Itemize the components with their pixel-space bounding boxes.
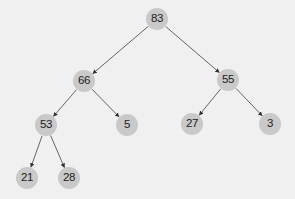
tree-node-53[interactable]: 53: [35, 114, 57, 136]
tree-node-66[interactable]: 66: [73, 70, 95, 92]
node-label: 5: [124, 119, 130, 131]
node-label: 27: [186, 118, 198, 130]
edge-55-3: [236, 88, 262, 115]
node-label: 21: [21, 172, 33, 184]
edge-66-5: [92, 89, 119, 117]
node-label: 3: [267, 118, 273, 130]
edge-53-28: [51, 136, 65, 168]
node-label: 53: [40, 119, 52, 131]
tree-node-28[interactable]: 28: [58, 167, 80, 189]
edge-53-21: [31, 136, 42, 167]
node-label: 55: [222, 74, 234, 86]
edge-66-53: [54, 90, 77, 117]
tree-diagram-canvas: 83 66 55 53 5 27 3 21 28: [0, 0, 295, 199]
edge-55-27: [199, 89, 220, 115]
tree-node-55[interactable]: 55: [217, 69, 239, 91]
node-label: 66: [78, 75, 90, 87]
tree-node-83[interactable]: 83: [146, 8, 168, 30]
tree-node-21[interactable]: 21: [16, 167, 38, 189]
tree-node-3[interactable]: 3: [259, 113, 281, 135]
tree-node-5[interactable]: 5: [116, 114, 138, 136]
tree-node-27[interactable]: 27: [181, 113, 203, 135]
edge-83-55: [166, 27, 220, 73]
edge-83-66: [93, 26, 148, 73]
node-label: 28: [63, 172, 75, 184]
edges-layer: [0, 0, 295, 199]
node-label: 83: [151, 13, 163, 25]
